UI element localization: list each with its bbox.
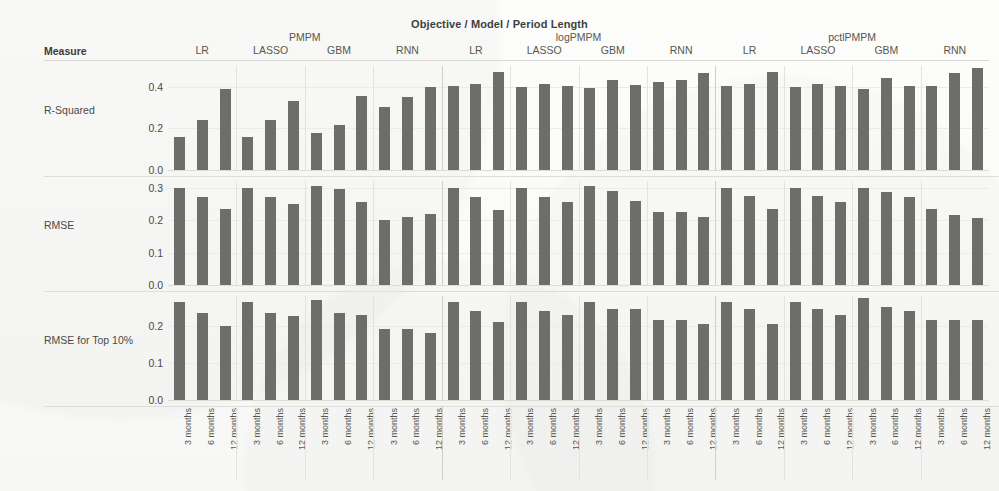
bar <box>197 313 208 400</box>
objective-label-logpmpm: logPMPM <box>442 31 716 43</box>
x-axis-tick-label: 6 months <box>411 408 421 445</box>
bar <box>265 313 276 400</box>
bar <box>767 209 778 285</box>
bar <box>356 315 367 400</box>
panel-separator <box>305 66 306 170</box>
bar <box>881 307 892 400</box>
bar <box>402 329 413 400</box>
bar <box>448 86 459 170</box>
x-axis-tick-label: 12 months <box>913 408 923 450</box>
bar <box>197 197 208 285</box>
bar <box>334 313 345 400</box>
x-axis-tick-label: 3 months <box>936 408 946 445</box>
bar <box>379 220 390 285</box>
x-axis-separator <box>442 406 443 480</box>
bar <box>721 302 732 400</box>
x-axis-separator <box>784 406 785 480</box>
bar <box>858 298 869 400</box>
objective-label-pctlpmpm: pctlPMPM <box>715 31 989 43</box>
bar <box>630 201 641 286</box>
bar <box>744 196 755 285</box>
bar <box>584 186 595 285</box>
bar <box>721 86 732 170</box>
bar <box>242 137 253 170</box>
plot-area-0: 0.00.20.4 <box>168 66 989 170</box>
x-axis-tick-label: 12 months <box>845 408 855 450</box>
y-axis-tick-label: 0.0 <box>148 279 163 291</box>
y-axis-tick-label: 0.0 <box>148 394 163 406</box>
bar <box>653 82 664 170</box>
panel-separator <box>373 66 374 170</box>
x-axis-tick-label: 3 months <box>252 408 262 445</box>
model-label-row: LRLASSOGBMRNNLRLASSOGBMRNNLRLASSOGBMRNN <box>168 44 989 58</box>
bar <box>926 86 937 170</box>
model-label-rnn-3: RNN <box>373 44 441 56</box>
bar <box>311 133 322 170</box>
panel-separator <box>510 181 511 285</box>
y-axis-tick-label: 0.1 <box>148 247 163 259</box>
bar <box>584 302 595 400</box>
bar <box>607 309 618 400</box>
model-label-gbm-2: GBM <box>305 44 373 56</box>
panel-separator <box>647 296 648 400</box>
model-label-lasso-5: LASSO <box>510 44 578 56</box>
objective-separator <box>715 181 716 285</box>
bar <box>812 84 823 170</box>
model-label-lasso-1: LASSO <box>236 44 304 56</box>
bar <box>516 188 527 286</box>
objective-separator <box>442 66 443 170</box>
panel-separator <box>852 66 853 170</box>
panel-separator <box>236 66 237 170</box>
bar <box>334 125 345 170</box>
x-axis-tick-label: 6 months <box>275 408 285 445</box>
bar <box>790 302 801 400</box>
bar <box>265 197 276 285</box>
bar <box>220 89 231 170</box>
plot-area-2: 0.00.10.2 <box>168 296 989 400</box>
x-axis-tick-label: 6 months <box>890 408 900 445</box>
x-axis-tick-label: 12 months <box>982 408 992 450</box>
bar <box>493 210 504 285</box>
bar <box>949 73 960 170</box>
row-label-measure: RMSE <box>44 219 154 232</box>
bar <box>972 320 983 400</box>
model-label-lr-8: LR <box>715 44 783 56</box>
row-label-measure: RMSE for Top 10% <box>44 334 154 347</box>
bar <box>539 311 550 400</box>
x-axis-tick-label: 12 months <box>366 408 376 450</box>
bar <box>311 186 322 285</box>
x-axis-tick-label: 12 months <box>776 408 786 450</box>
objective-separator <box>715 296 716 400</box>
x-axis-separator <box>715 406 716 480</box>
x-axis-separator <box>647 406 648 480</box>
model-label-lr-0: LR <box>168 44 236 56</box>
x-axis-separator <box>305 406 306 480</box>
x-axis-tick-label: 3 months <box>731 408 741 445</box>
x-axis-tick-label: 6 months <box>617 408 627 445</box>
objective-separator <box>442 296 443 400</box>
bar <box>698 324 709 400</box>
bar <box>356 96 367 170</box>
bar <box>926 320 937 400</box>
model-label-gbm-6: GBM <box>579 44 647 56</box>
row-label-measure: R-Squared <box>44 104 154 117</box>
panel-separator <box>784 296 785 400</box>
bar <box>676 212 687 285</box>
measure-column-header: Measure <box>44 45 87 57</box>
bar <box>220 326 231 400</box>
objective-label-row: PMPMlogPMPMpctlPMPM <box>168 31 989 44</box>
bar <box>835 202 846 285</box>
axis-baseline <box>168 285 989 286</box>
bar <box>493 322 504 400</box>
panel-separator <box>579 296 580 400</box>
bar <box>881 192 892 285</box>
panel-separator <box>373 181 374 285</box>
panel-separator <box>579 66 580 170</box>
bar <box>630 309 641 400</box>
bar <box>904 311 915 400</box>
bar <box>402 217 413 285</box>
bar <box>425 333 436 400</box>
x-axis-tick-label: 6 months <box>959 408 969 445</box>
x-axis-tick-label: 3 months <box>868 408 878 445</box>
x-axis-separator <box>236 406 237 480</box>
